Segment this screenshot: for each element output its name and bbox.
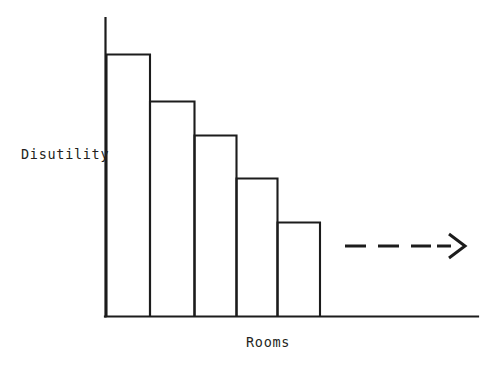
bar-5 [278, 223, 321, 317]
dashed-trend-arrow [345, 234, 465, 258]
arrow-head-icon [449, 234, 465, 258]
bar-3 [195, 136, 237, 317]
chart-canvas: Disutility Rooms [0, 0, 501, 366]
bar-4 [237, 179, 278, 317]
x-axis-label: Rooms [246, 334, 290, 350]
bar-chart-figure [0, 0, 501, 366]
bar-1 [107, 55, 151, 317]
bar-2 [150, 102, 195, 317]
y-axis-label: Disutility [21, 146, 109, 162]
